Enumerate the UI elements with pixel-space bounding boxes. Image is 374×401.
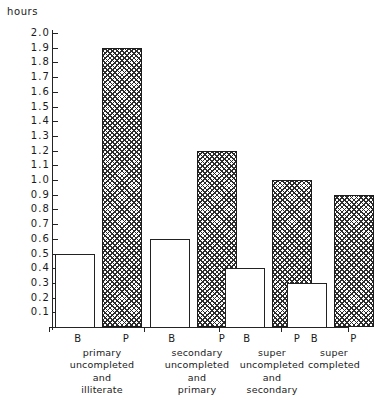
y-axis-tick xyxy=(53,180,58,181)
y-axis-tick-label: 0.6 xyxy=(31,234,50,244)
y-axis-unit-label: hours xyxy=(7,6,38,17)
y-axis-tick xyxy=(53,195,58,196)
y-axis-tick xyxy=(53,239,58,240)
y-axis-tick xyxy=(53,33,58,34)
series-key-b: B xyxy=(222,333,272,346)
series-key-b: B xyxy=(54,333,102,346)
y-axis-tick xyxy=(53,151,58,152)
y-axis-tick-label: 0.4 xyxy=(31,263,50,273)
y-axis-tick-label: 0.1 xyxy=(31,307,50,317)
y-axis-tick-label: 1.7 xyxy=(31,72,50,82)
bar-p xyxy=(334,195,374,327)
category-label-line: uncompleted xyxy=(54,359,150,372)
y-axis-tick-label: 1.4 xyxy=(31,116,50,126)
y-axis-tick-label: 1.6 xyxy=(31,87,50,97)
y-axis-tick-label: 0.8 xyxy=(31,204,50,214)
y-axis-tick-label: 1.9 xyxy=(31,43,50,53)
y-axis-tick xyxy=(53,121,58,122)
x-axis-group-tick xyxy=(281,327,282,332)
series-key-row: BP xyxy=(54,333,150,346)
x-axis-line xyxy=(49,327,349,328)
x-axis-group-tick xyxy=(348,327,349,332)
category-label-line: illiterate xyxy=(54,384,150,397)
series-key-b: B xyxy=(295,333,334,346)
y-axis-tick xyxy=(53,92,58,93)
y-axis-tick-label: 0.5 xyxy=(31,249,50,259)
y-axis-tick xyxy=(53,48,58,49)
bar-b xyxy=(150,239,190,327)
x-axis-group-tick xyxy=(144,327,145,332)
y-axis-tick-label: 0.9 xyxy=(31,190,50,200)
category-label-line: and xyxy=(54,372,150,385)
y-axis-tick-label: 1.2 xyxy=(31,146,50,156)
x-axis-group-tick xyxy=(49,327,50,332)
y-axis-tick-label: 0.7 xyxy=(31,219,50,229)
bar-b xyxy=(225,268,265,327)
y-axis-tick xyxy=(53,136,58,137)
y-axis-tick-label: 2.0 xyxy=(31,28,50,38)
category-label-line: and xyxy=(222,372,322,385)
y-axis-tick xyxy=(53,209,58,210)
y-axis-tick-label: 0.2 xyxy=(31,293,50,303)
y-axis-tick xyxy=(53,62,58,63)
x-axis-group-tick xyxy=(219,327,220,332)
y-axis-tick-label: 1.8 xyxy=(31,57,50,67)
y-axis-tick-label: 1.5 xyxy=(31,102,50,112)
y-axis-tick xyxy=(53,224,58,225)
y-axis-tick-label: 0.3 xyxy=(31,278,50,288)
bar-b xyxy=(287,283,327,327)
y-axis-tick-label: 1.0 xyxy=(31,175,50,185)
category-group-label: BPprimaryuncompletedandilliterate xyxy=(54,333,150,397)
y-axis-tick xyxy=(53,107,58,108)
y-axis-tick xyxy=(53,165,58,166)
y-axis-tick xyxy=(53,77,58,78)
series-key-b: B xyxy=(147,333,197,346)
category-label-line: super xyxy=(295,347,373,360)
series-key-p: P xyxy=(334,333,373,346)
category-label-line: primary xyxy=(54,347,150,360)
y-axis-tick-label: 1.1 xyxy=(31,160,50,170)
series-key-row: BP xyxy=(295,333,373,346)
category-label-line: secondary xyxy=(222,384,322,397)
bar-b xyxy=(55,254,95,328)
series-key-p: P xyxy=(102,333,150,346)
y-axis-tick-label: 1.3 xyxy=(31,131,50,141)
category-label-line: completed xyxy=(295,359,373,372)
bar-p xyxy=(102,48,142,327)
category-group-label: BPsupercompleted xyxy=(295,333,373,372)
